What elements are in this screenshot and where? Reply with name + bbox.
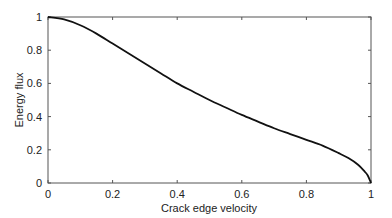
x-axis-label: Crack edge velocity	[161, 202, 257, 214]
y-tick-label: 1	[36, 11, 42, 23]
x-tick-label: 0.8	[299, 188, 314, 200]
y-tick-label: 0.4	[27, 111, 42, 123]
y-tick-label: 0.6	[27, 77, 42, 89]
y-tick-label: 0	[36, 177, 42, 189]
y-tick-label: 0.2	[27, 144, 42, 156]
energy-flux-chart: 00.20.40.60.8100.20.40.60.81 Crack edge …	[0, 0, 392, 218]
x-tick-label: 1	[368, 188, 374, 200]
plot-area: 00.20.40.60.8100.20.40.60.81	[27, 11, 374, 200]
x-tick-label: 0	[45, 188, 51, 200]
x-tick-label: 0.6	[234, 188, 249, 200]
x-tick-label: 0.4	[170, 188, 185, 200]
y-axis-label: Energy flux	[13, 72, 25, 128]
energy-flux-curve	[48, 17, 371, 183]
x-tick-label: 0.2	[105, 188, 120, 200]
y-tick-label: 0.8	[27, 44, 42, 56]
